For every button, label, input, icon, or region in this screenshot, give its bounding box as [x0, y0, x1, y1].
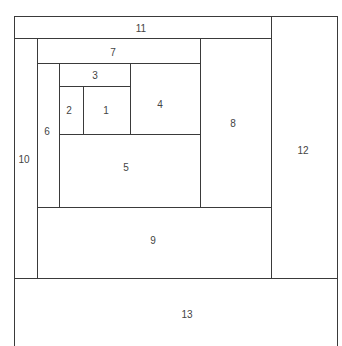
region-label-6: 6 — [44, 126, 50, 137]
divider-line — [83, 86, 84, 134]
divider-line — [337, 16, 338, 346]
region-5 — [59, 134, 200, 207]
region-label-9: 9 — [150, 235, 156, 246]
region-13 — [14, 278, 338, 346]
divider-line — [37, 63, 200, 64]
region-label-2: 2 — [66, 105, 72, 116]
region-label-3: 3 — [92, 70, 98, 81]
region-label-10: 10 — [18, 154, 29, 165]
region-label-11: 11 — [136, 23, 146, 34]
region-label-13: 13 — [181, 309, 192, 320]
region-label-8: 8 — [230, 118, 236, 129]
region-label-12: 12 — [297, 145, 308, 156]
region-label-5: 5 — [123, 162, 129, 173]
region-label-4: 4 — [157, 99, 163, 110]
divider-line — [59, 86, 130, 87]
divider-line — [14, 16, 15, 346]
divider-line — [37, 207, 271, 208]
region-7 — [37, 38, 200, 63]
divider-line — [14, 16, 338, 17]
divider-line — [14, 38, 271, 39]
divider-line — [130, 63, 131, 134]
region-label-1: 1 — [103, 105, 109, 116]
divider-line — [271, 16, 272, 278]
region-label-7: 7 — [110, 47, 116, 58]
divider-line — [14, 278, 338, 279]
nested-rectangle-diagram: 12345678910111213 — [0, 0, 342, 346]
divider-line — [200, 38, 201, 207]
region-4 — [130, 63, 200, 134]
divider-line — [59, 134, 200, 135]
divider-line — [37, 38, 38, 278]
